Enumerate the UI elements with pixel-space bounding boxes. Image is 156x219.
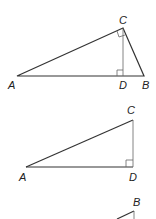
label-d: D [119,79,127,91]
label-a2: A [18,171,26,183]
label-b3: B [133,196,140,208]
label-a: A [7,79,15,91]
label-b: B [142,79,149,91]
right-angle-mark-c [117,31,125,37]
label-c2: C [127,104,135,116]
label-c: C [119,14,127,26]
triangle-abc: C A D B [7,14,149,91]
right-angle-mark-d2 [126,160,133,167]
label-d2: D [129,171,137,183]
triangle-bcd-partial: B [117,196,140,219]
figure-canvas: C A D B C A D B [0,0,156,219]
triangle-acd: C A D [18,104,137,183]
